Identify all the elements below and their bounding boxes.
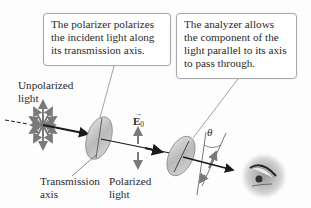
analyzer-callout-line: the component of the xyxy=(184,31,290,44)
eye-icon xyxy=(241,153,287,199)
incoming-beam-dashed xyxy=(5,120,28,124)
label-line: Unpolarized xyxy=(18,79,73,92)
transmission-axis-pointer xyxy=(72,155,96,176)
polarizer-pointer xyxy=(98,66,114,125)
analyzer-disk xyxy=(161,132,201,180)
unpolarized-light-label: Unpolarized light xyxy=(18,79,73,104)
vertical-reference-line xyxy=(197,132,206,195)
theta-label: θ xyxy=(207,126,212,139)
polarized-light-label: Polarized light xyxy=(109,175,151,200)
analyzer-callout-line: light parallel to its axis xyxy=(184,44,290,57)
polarizer-disk xyxy=(81,113,117,162)
e-subscript: 0 xyxy=(140,120,144,129)
label-line: light xyxy=(109,188,151,201)
polarizer-callout: The polarizer polarizes the incident lig… xyxy=(43,13,171,66)
label-line: Transmission xyxy=(40,175,100,188)
analyzer-callout: The analyzer allows the component of the… xyxy=(176,13,297,79)
polarizer-callout-line: The polarizer polarizes xyxy=(51,18,164,31)
polarizer-callout-line: the incident light along xyxy=(51,31,164,44)
polarizer-callout-line: its transmission axis. xyxy=(51,44,164,57)
analyzer-pointer xyxy=(193,79,238,138)
analyzer-axis-line xyxy=(202,133,226,186)
analyzer-callout-line: The analyzer allows xyxy=(184,18,290,31)
transmission-axis-label: Transmission axis xyxy=(40,175,100,200)
vector-arrow-mark: → xyxy=(134,108,142,121)
e-field-label: →E0 xyxy=(133,115,144,130)
analyzer-callout-line: to pass through. xyxy=(184,57,290,70)
beam-arrow-2 xyxy=(145,148,162,152)
theta-arc xyxy=(204,145,221,148)
label-line: Polarized xyxy=(109,175,151,188)
label-line: axis xyxy=(40,188,100,201)
label-line: light xyxy=(18,92,73,105)
